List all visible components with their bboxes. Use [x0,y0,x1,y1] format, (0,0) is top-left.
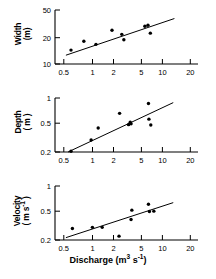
data-point [101,226,104,229]
data-point [69,48,72,51]
y-tick-label: 0.2 [41,148,51,157]
data-point [110,29,113,32]
x-tick-label: 5 [139,244,143,253]
x-tick-label: 5 [139,68,143,77]
x-tick-label: 2 [111,156,115,165]
x-tick-label: 10 [158,68,166,77]
x-tick-label: 2 [111,244,115,253]
x-ticks [64,147,191,152]
y-tick-label: 50 [43,6,51,15]
data-point [69,150,72,153]
x-tick-label: 20 [186,68,194,77]
x-tick-label: 2 [111,68,115,77]
data-point [89,138,92,141]
data-point [147,102,150,105]
plot-velocity: 0.2 0.5 1 0.5 1 2 5 10 20 [0,178,216,263]
regression-line [66,19,174,56]
regression-line-group [68,103,173,152]
data-point [146,24,149,27]
data-point [91,226,94,229]
x-tick-label: 20 [186,244,194,253]
data-point [149,123,152,126]
regression-line-group [66,203,173,238]
y-tick-label: 0.5 [41,207,51,216]
data-point [148,210,151,213]
data-point [143,24,146,27]
data-point [82,40,85,43]
y-axis-title-velocity: Velocity ( m s-1 ) [13,178,31,244]
x-tick-label: 1 [90,68,94,77]
y-tick-label: 1 [47,94,51,103]
y-tick-label: 0.2 [41,236,51,245]
y-axis-title-width: Width (m) [14,4,32,64]
plot-width: 10 20 50 0.5 1 2 5 10 20 [0,2,216,87]
data-point [96,126,99,129]
x-tick-label: 10 [158,156,166,165]
panel-width: Width (m) 10 20 [0,2,216,87]
panel-velocity: Velocity ( m s-1 ) 0.2 0.5 1 0.5 [0,178,216,263]
data-point [130,208,133,211]
data-point [152,209,155,212]
x-tick-label: 0.5 [59,68,69,77]
x-tick-label: 0.5 [59,244,69,253]
x-ticks [64,235,191,240]
x-tick-label: 1 [90,156,94,165]
data-point [147,117,150,120]
regression-line [66,203,173,238]
x-tick-label: 10 [158,244,166,253]
regression-line [68,103,173,152]
data-points-group [71,203,156,238]
data-point [129,218,132,221]
data-point [149,31,152,34]
panel-depth: Depth ( m ) 0.2 0.5 1 0.5 1 [0,90,216,175]
data-point [129,122,132,125]
data-point [122,38,125,41]
hydraulic-geometry-figure: Width (m) 10 20 [0,0,216,279]
y-axis-title-depth: Depth ( m ) [14,92,32,152]
x-tick-label: 1 [90,244,94,253]
y-tick-label: 20 [43,34,51,43]
data-point [147,203,150,206]
regression-line-group [66,19,174,56]
data-point [120,33,123,36]
x-axis-title-units: (m3 s-1) [116,255,147,265]
data-point [71,227,74,230]
x-axis-title: Discharge (m3 s-1) [0,255,216,265]
x-tick-label: 5 [139,156,143,165]
x-ticks [64,59,191,64]
data-point [117,234,120,237]
plot-depth: 0.2 0.5 1 0.5 1 2 5 10 20 [0,90,216,175]
x-tick-label: 20 [186,156,194,165]
data-points-group [69,24,152,52]
y-tick-label: 10 [43,60,51,69]
y-axis-title-velocity-units: ( m s-1 ) [22,178,31,244]
data-point [118,112,121,115]
y-tick-label: 1 [47,182,51,191]
x-tick-label: 0.5 [59,156,69,165]
y-ticks [55,186,60,240]
y-ticks [55,10,60,64]
y-ticks [55,98,60,152]
data-point [94,43,97,46]
y-tick-label: 0.5 [41,119,51,128]
